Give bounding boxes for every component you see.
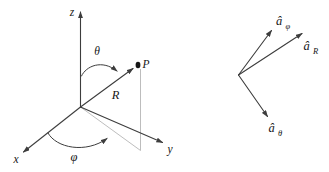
point-p-marker xyxy=(136,62,141,69)
y-axis-label: y xyxy=(166,143,173,156)
right-diagram: â φ â R â θ xyxy=(239,14,319,138)
spherical-coordinates-figure: z x y θ φ R P â φ â R â θ xyxy=(0,0,329,172)
unit-vector-r-base: â xyxy=(304,39,310,53)
unit-vector-phi-base: â xyxy=(276,14,282,28)
unit-vector-r xyxy=(239,34,303,76)
theta-label: θ xyxy=(94,45,100,57)
unit-vector-theta-base: â xyxy=(269,121,275,135)
x-axis-label: x xyxy=(12,153,19,165)
radius-vector xyxy=(81,69,134,108)
theta-angle-arc xyxy=(82,65,118,76)
unit-vector-theta-sub: θ xyxy=(278,128,282,138)
left-diagram: z x y θ φ R P xyxy=(12,6,173,165)
unit-vector-phi-label: â φ xyxy=(276,14,290,31)
x-axis xyxy=(24,107,81,152)
unit-vector-theta xyxy=(239,75,268,117)
phi-angle-arc xyxy=(48,133,107,148)
phi-label: φ xyxy=(71,150,78,164)
unit-vector-theta-label: â θ xyxy=(269,121,283,138)
unit-vector-phi xyxy=(239,31,272,76)
z-axis-label: z xyxy=(69,6,75,18)
figure-canvas: z x y θ φ R P â φ â R â θ xyxy=(0,0,329,172)
unit-vector-r-label: â R xyxy=(304,39,319,56)
unit-vector-phi-sub: φ xyxy=(285,21,290,31)
point-p-label: P xyxy=(142,58,150,70)
radius-label: R xyxy=(111,88,120,102)
unit-vector-r-sub: R xyxy=(312,46,319,56)
